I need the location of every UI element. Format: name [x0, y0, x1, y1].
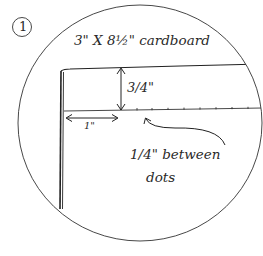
- height-label: 3/4": [127, 81, 154, 94]
- dot-spacing-note-line1: 1/4" between: [130, 148, 221, 162]
- cardboard-title: 3" X 8½" cardboard: [74, 34, 210, 48]
- width-label: 1": [84, 121, 95, 131]
- cardboard-top-edge: [61, 64, 262, 71]
- step-number: 1: [19, 20, 27, 33]
- height-dimension-arrow: [117, 68, 125, 110]
- diagram-canvas: 1 3" X 8½" cardboard 3/4" 1" 1/4" betwee…: [0, 0, 263, 256]
- cardboard-left-edge: [60, 71, 61, 209]
- pointer-arrow: [144, 118, 225, 145]
- dot-spacing-note-line2: dots: [146, 171, 175, 185]
